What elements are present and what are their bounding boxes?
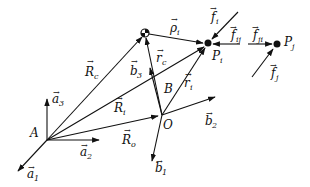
svg-text:ji: ji [256,35,263,44]
label-O: O [163,118,173,132]
svg-text:i: i [177,28,180,37]
label-a2: → a 2 [80,141,92,161]
label-rho-i: → ρ i [169,15,180,37]
label-A: A [29,126,39,140]
svg-text:i: i [216,17,219,26]
label-Pj: P j [283,35,295,51]
svg-text:1: 1 [162,168,167,177]
svg-text:c: c [94,72,99,81]
label-a1: → a 1 [27,163,39,183]
vector-b1 [152,115,162,161]
label-fi: → f i [210,4,219,26]
svg-text:2: 2 [86,152,92,161]
vector-rho-i [149,34,203,43]
svg-text:2: 2 [211,121,217,130]
svg-text:o: o [131,140,136,149]
svg-text:c: c [162,58,167,67]
svg-text:3: 3 [59,99,64,108]
center-of-mass-marker [141,29,149,37]
svg-text:i: i [123,108,126,117]
svg-text:1: 1 [34,174,39,183]
label-b1: → b 1 [155,157,167,177]
particle-Pi-dot [205,40,212,47]
label-ri: → r i [184,70,193,92]
svg-text:i: i [220,56,223,65]
svg-text:ij: ij [236,35,242,44]
label-B: B [163,82,173,96]
label-rc: → r c [156,46,167,67]
svg-text:ρ: ρ [169,21,177,35]
vector-Ro [47,116,158,140]
svg-text:R: R [121,133,131,147]
label-Ro: → R o [121,126,136,149]
label-fji: → f ji [252,23,263,44]
label-Rc: → R c [84,57,99,81]
label-fj: → f j [270,61,279,82]
svg-text:3: 3 [137,71,142,80]
svg-text:R: R [113,101,123,115]
particle-Pj-dot [274,41,281,48]
label-a3: → a 3 [52,88,64,108]
label-b2: → b 2 [205,109,217,130]
mechanics-diagram: A O B P i P j → a 3 → a 2 → a 1 → R c → … [0,0,310,187]
svg-text:i: i [190,83,193,92]
label-Ri: → R i [113,94,126,117]
label-b3: → b 3 [130,57,142,80]
label-Pi: P i [211,49,223,65]
vector-Rc [47,37,142,140]
svg-text:R: R [84,65,94,79]
label-fij: → f ij [230,23,242,44]
